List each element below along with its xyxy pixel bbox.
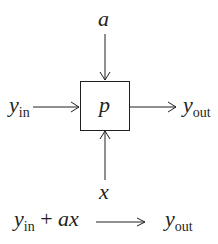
input-a-label: a <box>98 8 109 30</box>
block-diagram: a p yin yout x yin + ax yout <box>0 0 218 244</box>
block-p-label: p <box>99 94 110 116</box>
equation-rhs: yout <box>165 208 193 230</box>
equation-lhs: yin + ax <box>14 208 79 230</box>
input-x-label: x <box>99 181 109 203</box>
output-yout-label: yout <box>183 94 211 116</box>
input-yin-label: yin <box>9 94 30 116</box>
